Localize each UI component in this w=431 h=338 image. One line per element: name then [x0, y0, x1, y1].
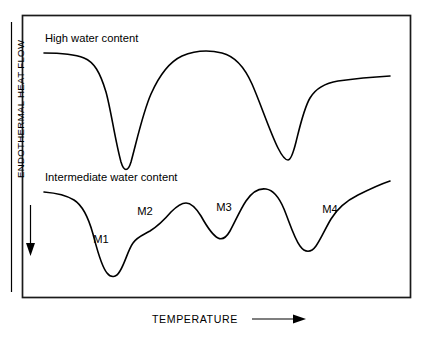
peak-label-m3: M3	[216, 201, 232, 213]
peak-label-m4: M4	[322, 203, 338, 215]
series-label-high-water-content: High water content	[45, 32, 139, 44]
series-label-intermediate-water-content: Intermediate water content	[45, 171, 178, 183]
peak-label-m1: M1	[93, 233, 109, 245]
peak-label-m2: M2	[137, 205, 153, 217]
label-layer: High water content Intermediate water co…	[0, 0, 431, 338]
dsc-thermogram-figure: ENDOTHERMAL HEAT FLOW TEMPERATURE High w…	[0, 0, 431, 338]
